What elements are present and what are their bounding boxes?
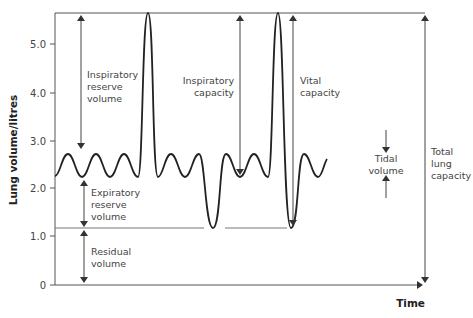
y-tick-5: 5.0 xyxy=(30,39,46,50)
label-tlc: Total lung capacity xyxy=(430,146,471,181)
y-tick-0: 0 xyxy=(40,280,46,291)
svg-text:volume: volume xyxy=(87,93,122,104)
y-tick-3: 3.0 xyxy=(30,136,46,147)
svg-text:reserve: reserve xyxy=(91,199,127,210)
annotation-arrows xyxy=(81,18,425,280)
svg-text:capacity: capacity xyxy=(300,87,340,98)
svg-text:reserve: reserve xyxy=(87,81,123,92)
y-tick-1: 1.0 xyxy=(30,231,46,242)
axes xyxy=(50,13,425,285)
svg-text:Inspiratory: Inspiratory xyxy=(183,75,235,86)
label-ic: Inspiratory capacity xyxy=(183,75,235,98)
svg-text:capacity: capacity xyxy=(194,87,234,98)
svg-text:Tidal: Tidal xyxy=(374,153,398,164)
svg-text:Vital: Vital xyxy=(300,75,321,86)
label-rv: Residual volume xyxy=(91,246,131,269)
y-axis-label: Lung volume/litres xyxy=(7,95,19,206)
x-axis-label: Time xyxy=(396,297,425,309)
y-tick-2: 2.0 xyxy=(30,183,46,194)
svg-text:volume: volume xyxy=(91,258,126,269)
lung-volume-diagram: 0 1.0 2.0 3.0 4.0 5.0 Lung volume/litres… xyxy=(0,0,473,318)
svg-text:Expiratory: Expiratory xyxy=(91,187,140,198)
y-tick-labels: 0 1.0 2.0 3.0 4.0 5.0 xyxy=(30,39,46,291)
svg-text:Total: Total xyxy=(430,146,453,157)
y-tick-4: 4.0 xyxy=(30,88,46,99)
svg-text:Residual: Residual xyxy=(91,246,131,257)
svg-text:volume: volume xyxy=(368,165,403,176)
svg-text:capacity: capacity xyxy=(431,170,471,181)
svg-text:volume: volume xyxy=(91,211,126,222)
svg-text:lung: lung xyxy=(431,158,452,169)
label-vc: Vital capacity xyxy=(300,75,340,98)
label-erv: Expiratory reserve volume xyxy=(91,187,140,222)
svg-text:Inspiratory: Inspiratory xyxy=(87,69,139,80)
label-irv: Inspiratory reserve volume xyxy=(87,69,139,104)
label-tidal: Tidal volume xyxy=(368,153,403,176)
